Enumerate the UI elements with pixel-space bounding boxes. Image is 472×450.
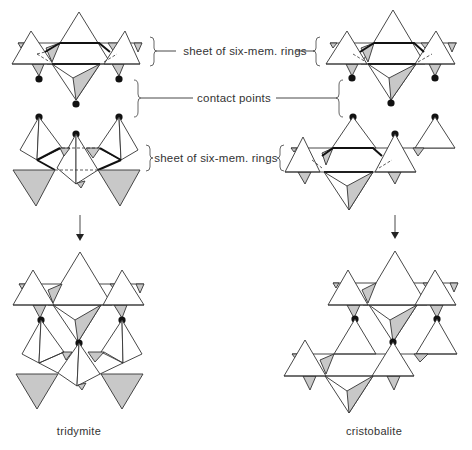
contact-points-label: contact points xyxy=(197,92,271,104)
bottom-right-sheet xyxy=(285,113,455,210)
bottom-sheet-label: sheet of six-mem. rings xyxy=(154,152,278,164)
arrow-right xyxy=(391,215,399,239)
cristobalite-structure: cristobalite xyxy=(284,251,458,437)
tridymite-caption: tridymite xyxy=(57,425,101,437)
label-group-top-sheet: sheet of six-mem. rings xyxy=(150,37,320,66)
top-right-sheet xyxy=(326,10,457,107)
bottom-left-sheet xyxy=(13,113,140,206)
silica-polymorph-diagram: sheet of six-mem. rings contact points s… xyxy=(0,0,472,450)
top-sheet-label: sheet of six-mem. rings xyxy=(183,45,307,57)
cristobalite-caption: cristobalite xyxy=(346,425,402,437)
top-left-sheet xyxy=(12,12,142,100)
tridymite-structure: tridymite xyxy=(13,252,144,437)
label-group-bottom-sheet: sheet of six-mem. rings xyxy=(146,145,284,171)
label-group-contact: contact points xyxy=(134,80,343,117)
arrow-left xyxy=(76,215,84,241)
